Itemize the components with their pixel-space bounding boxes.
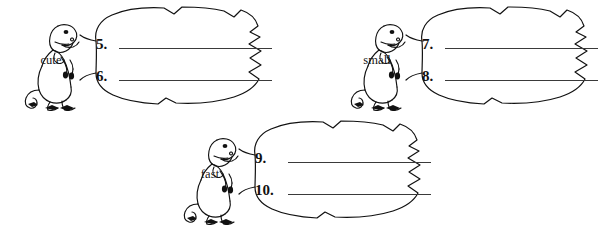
dino-word-label: fast [179,168,241,181]
answer-row: 5. [96,30,272,52]
answer-lines: 7. 8. [422,30,598,92]
answer-lines: 9. 10. [255,144,431,206]
item-number: 8. [422,69,445,84]
answer-row: 10. [255,176,431,198]
item-number: 7. [422,37,445,52]
item-number: 9. [255,151,288,166]
item-number: 10. [255,183,288,198]
answer-lines: 5. 6. [96,30,272,92]
worksheet-canvas: cute 5. 6. [0,0,602,233]
dino-prompt-group: small 7. 8. [330,2,602,120]
answer-blank[interactable] [119,48,272,49]
dino-word-label: small [346,54,408,67]
answer-blank[interactable] [288,194,431,195]
answer-row: 9. [255,144,431,166]
dino-prompt-group: cute 5. 6. [4,2,276,120]
answer-blank[interactable] [445,48,598,49]
answer-blank[interactable] [288,162,431,163]
answer-row: 6. [96,62,272,84]
answer-blank[interactable] [445,80,598,81]
dino-prompt-group: fast 9. 10. [163,116,435,233]
item-number: 6. [96,69,119,84]
answer-row: 8. [422,62,598,84]
answer-blank[interactable] [119,80,272,81]
dino-word-label: cute [20,54,82,67]
answer-row: 7. [422,30,598,52]
item-number: 5. [96,37,119,52]
